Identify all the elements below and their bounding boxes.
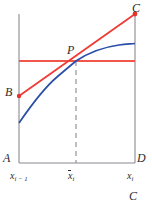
x-tick-label-left: xi − 1 <box>10 171 28 183</box>
figure-caption-label: C <box>129 190 137 202</box>
vertex-label-a: A <box>3 152 10 164</box>
x-tick-label-right: xi <box>127 171 133 183</box>
vertex-label-c: C <box>132 2 140 14</box>
secant-line-BC <box>19 14 135 96</box>
x-tick-left-subscript: i − 1 <box>14 175 27 182</box>
x-tick-right-subscript: i <box>131 175 133 182</box>
vertex-label-d: D <box>137 152 146 164</box>
midpoint-rule-figure: A D B P C xi − 1 xi xi C <box>0 0 152 210</box>
vertex-label-p: P <box>67 44 74 56</box>
vertex-label-b: B <box>5 86 12 98</box>
x-tick-label-midpoint: xi <box>68 171 74 183</box>
x-tick-mid-subscript: i <box>72 175 74 182</box>
point-B-marker <box>17 94 21 98</box>
x-tick-mid-base: x <box>68 171 72 181</box>
